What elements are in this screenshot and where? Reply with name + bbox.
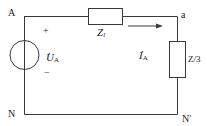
node-label-N: N [8,109,15,119]
line-impedance-label: Zl [97,27,105,39]
current-symbol: I [139,50,143,61]
current-subscript: A [143,54,148,62]
node-label-N-prime: N′ [182,114,191,124]
source-minus-sign: − [44,68,50,78]
source-voltage-subscript: A [54,56,59,64]
node-label-A: A [8,8,15,18]
current-arrow-head-icon [156,24,163,29]
line-impedance-subscript: l [103,31,105,39]
line-impedance-box [89,9,123,25]
load-impedance-label: Z/3 [188,55,201,64]
circuit-wires [0,0,207,126]
source-voltage-symbol: U [46,52,54,63]
load-impedance-box [170,42,186,78]
source-voltage-label: UA [46,52,59,64]
current-label: IA [139,50,148,62]
circuit-diagram: A a N N′ + − UA Zl IA Z/3 [0,0,207,126]
source-plus-sign: + [43,26,49,36]
node-label-a: a [181,10,185,20]
